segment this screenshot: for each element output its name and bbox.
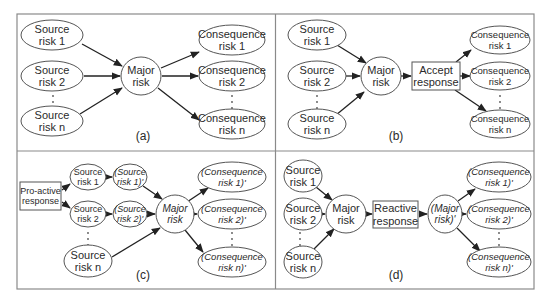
node-label-line: risk 2)' bbox=[485, 214, 514, 225]
node-d-c2: (Consequencerisk 2)' bbox=[467, 199, 531, 229]
panel-d-reactive-response: Sourcerisk 1Sourcerisk 2Sourcerisk nMajo… bbox=[284, 160, 531, 282]
node-a-cn: Consequencerisk n bbox=[198, 109, 266, 139]
node-b-cn: Consequencerisk n bbox=[470, 110, 530, 138]
node-label-line: (Consequence bbox=[468, 166, 530, 177]
node-label-line: risk 2)' bbox=[117, 214, 143, 224]
node-label-line: risk 1)' bbox=[218, 177, 247, 188]
arrow-connector bbox=[80, 88, 122, 114]
node-label-line: Source bbox=[286, 164, 321, 176]
ellipsis-dot bbox=[316, 101, 318, 103]
node-label-line: risk n bbox=[39, 121, 65, 133]
arrow-connector bbox=[457, 228, 480, 251]
node-a-sn: Sourcerisk n bbox=[21, 106, 83, 136]
ellipsis-dot bbox=[316, 95, 318, 97]
node-label-line: Consequence bbox=[471, 113, 530, 124]
arrow-connector bbox=[161, 52, 199, 68]
arrow-connector bbox=[185, 230, 203, 252]
panel-a-baseline-risk-chain: Sourcerisk 1Sourcerisk 2Sourcerisk nMajo… bbox=[21, 20, 266, 143]
node-c-pro: Pro-activeresponse bbox=[20, 182, 61, 210]
node-label-line: response bbox=[413, 76, 458, 88]
ellipsis-dot bbox=[87, 238, 89, 240]
node-label-line: risk n)' bbox=[218, 262, 247, 273]
ellipsis-dot bbox=[87, 232, 89, 234]
arrow-connector bbox=[314, 229, 334, 249]
arrow-connector bbox=[456, 50, 471, 62]
ellipsis-dot bbox=[498, 244, 500, 246]
node-label-line: Consequence bbox=[471, 65, 530, 76]
node-label-line: risk 2 bbox=[489, 76, 512, 87]
ellipsis-dot bbox=[299, 238, 301, 240]
node-label-line: risk bbox=[167, 214, 184, 225]
ellipsis-dot bbox=[498, 238, 500, 240]
node-label-line: Consequence bbox=[198, 28, 266, 40]
node-label-line: risk n bbox=[489, 124, 512, 135]
ellipsis-dot bbox=[52, 101, 54, 103]
arrow-connector bbox=[112, 228, 160, 257]
node-label-line: Major bbox=[332, 202, 360, 214]
node-label-line: risk n bbox=[75, 261, 101, 273]
node-d-sn: Sourcerisk n bbox=[284, 246, 322, 278]
node-label-line: risk 2 bbox=[77, 214, 99, 224]
arrow-connector bbox=[143, 186, 162, 199]
node-label-line: Consequence bbox=[471, 29, 530, 40]
node-label-line: Source bbox=[300, 23, 335, 35]
node-d-c1: (Consequencerisk 1)' bbox=[467, 162, 531, 192]
node-label-line: risk 2 bbox=[304, 76, 330, 88]
ellipsis-dot bbox=[299, 232, 301, 234]
node-label-line: risk 1 bbox=[290, 176, 316, 188]
node-label-line: Source bbox=[35, 64, 70, 76]
node-c-s1p: (Sourcerisk 1)' bbox=[113, 164, 147, 190]
node-label-line: (Consequence bbox=[201, 166, 263, 177]
ellipsis-dot bbox=[499, 107, 501, 109]
node-label-line: Pro-active bbox=[20, 186, 61, 196]
node-label-line: risk n bbox=[219, 124, 245, 136]
node-label-line: risk 1 bbox=[77, 177, 99, 187]
ellipsis-dot bbox=[231, 101, 233, 103]
ellipsis-dot bbox=[231, 244, 233, 246]
node-label-line: Source bbox=[300, 112, 335, 124]
panel-caption: (d) bbox=[389, 268, 404, 282]
panel-caption: (c) bbox=[136, 268, 150, 282]
node-label-line: risk n bbox=[290, 262, 316, 274]
arrow-connector bbox=[158, 88, 199, 120]
node-b-s1: Sourcerisk 1 bbox=[288, 20, 346, 50]
node-label-line: Source bbox=[71, 249, 106, 261]
node-label-line: Consequence bbox=[198, 64, 266, 76]
node-label-line: (Source bbox=[114, 167, 146, 177]
node-label-line: (Consequence bbox=[468, 203, 530, 214]
node-c-m: Majorrisk bbox=[156, 195, 194, 233]
node-c-s2: Sourcerisk 2 bbox=[70, 201, 106, 227]
node-b-m: Majorrisk bbox=[361, 57, 401, 95]
arrow-connector bbox=[187, 188, 208, 202]
node-label-line: risk n)' bbox=[485, 262, 514, 273]
node-label-line: response bbox=[22, 196, 59, 206]
node-label-line: risk 2)' bbox=[218, 214, 247, 225]
panel-caption: (a) bbox=[136, 129, 151, 143]
node-label-line: risk)' bbox=[435, 214, 457, 225]
arrow-connector bbox=[316, 187, 332, 200]
node-d-mp: (Majorrisk)' bbox=[428, 195, 462, 233]
panel-b-accept-response: Sourcerisk 1Sourcerisk 2Sourcerisk nMajo… bbox=[288, 20, 530, 143]
arrow-connector bbox=[337, 45, 366, 63]
node-label-line: Source bbox=[300, 64, 335, 76]
ellipsis-dot bbox=[231, 232, 233, 234]
node-label-line: risk 1 bbox=[39, 35, 65, 47]
node-d-s1: Sourcerisk 1 bbox=[284, 160, 322, 192]
ellipsis-dot bbox=[231, 95, 233, 97]
node-c-s2p: (Sourcerisk 2)' bbox=[113, 201, 147, 227]
node-label-line: (Source bbox=[114, 204, 146, 214]
arrow-connector bbox=[336, 92, 364, 115]
node-d-resp: Reactiveresponse bbox=[373, 201, 418, 228]
node-label-line: Accept bbox=[419, 64, 453, 76]
panel-caption: (b) bbox=[389, 129, 404, 143]
ellipsis-dot bbox=[52, 95, 54, 97]
node-a-s1: Sourcerisk 1 bbox=[21, 20, 83, 50]
node-a-c1: Consequencerisk 1 bbox=[198, 25, 266, 55]
ellipsis-dot bbox=[499, 101, 501, 103]
ellipsis-dot bbox=[498, 232, 500, 234]
node-label-line: Major bbox=[162, 203, 188, 214]
node-b-resp: Acceptresponse bbox=[412, 62, 460, 90]
node-label-line: risk 1 bbox=[304, 35, 330, 47]
node-label-line: Source bbox=[286, 202, 321, 214]
node-a-m: Majorrisk bbox=[121, 57, 161, 95]
